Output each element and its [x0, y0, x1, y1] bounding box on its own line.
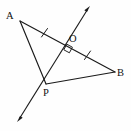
vertex-label-a: A: [6, 11, 14, 22]
arrow-head-upper-icon: [84, 6, 90, 12]
segment-pb: [46, 72, 115, 84]
geometry-figure: A B P O: [0, 0, 131, 131]
arrow-head-lower-icon: [17, 116, 23, 122]
vertex-label-p: P: [43, 88, 49, 99]
segment-ab: [20, 21, 115, 72]
geometry-canvas: [0, 0, 131, 131]
segment-ap: [20, 21, 46, 84]
vertex-label-b: B: [117, 68, 124, 79]
vertex-label-o: O: [69, 34, 77, 45]
